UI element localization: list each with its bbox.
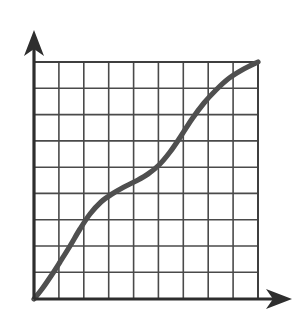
- grid-vertical-lines: [34, 62, 258, 299]
- sigmoid-curve: [34, 62, 258, 299]
- plot-area-border: [34, 62, 258, 299]
- x-axis: [34, 289, 292, 309]
- plot-canvas: [0, 0, 302, 332]
- grid-horizontal-lines: [34, 62, 258, 299]
- figure-root: [0, 0, 302, 332]
- y-axis: [24, 30, 44, 299]
